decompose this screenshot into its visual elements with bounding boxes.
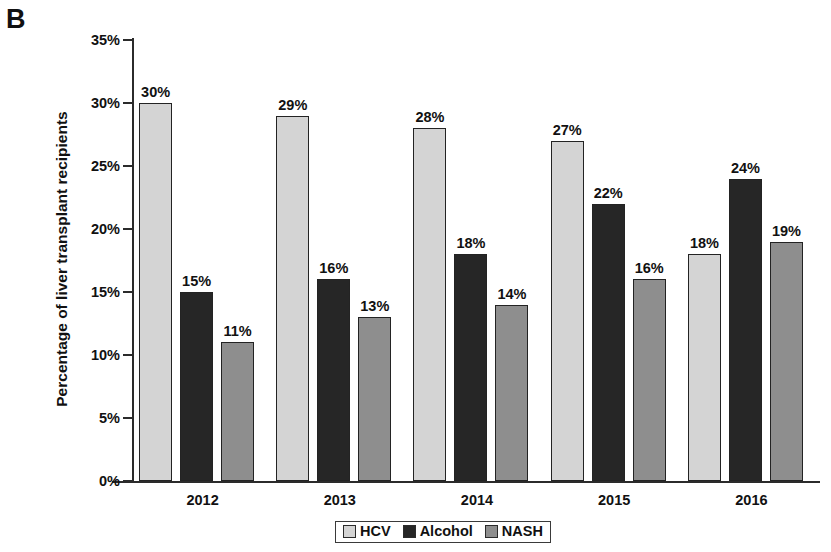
bar-value-label: 28% <box>415 109 444 125</box>
figure-panel-b: B Percentage of liver transplant recipie… <box>0 0 831 552</box>
bar-value-label: 11% <box>223 323 251 339</box>
legend-label: NASH <box>502 524 543 539</box>
y-axis-tick-label: 10% <box>62 347 120 363</box>
legend-label: Alcohol <box>420 524 473 539</box>
legend-swatch-icon <box>343 525 356 538</box>
legend-item[interactable]: HCV <box>343 524 391 539</box>
y-axis-tick <box>123 291 133 293</box>
bar-value-label: 30% <box>141 84 170 100</box>
y-axis-tick-label: 25% <box>62 158 120 174</box>
bar-value-label: 19% <box>772 223 801 239</box>
bar[interactable]: 18% <box>688 254 721 481</box>
bar[interactable]: 28% <box>413 128 446 481</box>
bar[interactable]: 13% <box>358 317 391 481</box>
y-axis-tick <box>123 354 133 356</box>
bar[interactable]: 11% <box>221 342 254 481</box>
x-axis-tick-label: 2013 <box>271 492 408 508</box>
legend-swatch-icon <box>485 525 498 538</box>
bar[interactable]: 19% <box>770 242 803 481</box>
bar-value-label: 13% <box>360 298 389 314</box>
bar-value-label: 27% <box>553 122 582 138</box>
bar-group: 29%16%13% <box>271 40 408 481</box>
y-axis-tick-label: 5% <box>62 410 120 426</box>
x-axis-tick-label: 2012 <box>134 492 271 508</box>
x-axis-tick-label: 2014 <box>408 492 545 508</box>
y-axis-tick-label: 35% <box>62 32 120 48</box>
bar[interactable]: 14% <box>495 305 528 481</box>
bar-value-label: 14% <box>497 286 526 302</box>
y-axis-tick <box>123 480 133 482</box>
bar-value-label: 22% <box>594 185 623 201</box>
y-axis-tick-label: 0% <box>62 473 120 489</box>
y-axis-tick <box>123 228 133 230</box>
bar-value-label: 18% <box>456 235 485 251</box>
y-axis-tick <box>123 102 133 104</box>
bar-group: 18%24%19% <box>683 40 820 481</box>
bar[interactable]: 27% <box>551 141 584 481</box>
bar-value-label: 16% <box>635 260 664 276</box>
y-axis-tick-label: 20% <box>62 221 120 237</box>
panel-label: B <box>6 6 26 33</box>
bar-value-label: 29% <box>278 97 307 113</box>
y-axis-tick <box>123 39 133 41</box>
y-axis-tick <box>123 417 133 419</box>
x-axis-tick-label: 2016 <box>683 492 820 508</box>
bar[interactable]: 30% <box>139 103 172 481</box>
legend-label: HCV <box>360 524 391 539</box>
y-axis-tick <box>123 165 133 167</box>
bar-value-label: 18% <box>690 235 719 251</box>
x-axis-line <box>112 481 820 483</box>
bar-value-label: 15% <box>182 273 211 289</box>
x-axis-tick-label: 2015 <box>546 492 683 508</box>
chart-legend: HCVAlcoholNASH <box>335 521 551 543</box>
bar-value-label: 16% <box>319 260 348 276</box>
plot-area: 30%15%11%29%16%13%28%18%14%27%22%16%18%2… <box>134 40 820 481</box>
legend-item[interactable]: Alcohol <box>403 524 473 539</box>
legend-item[interactable]: NASH <box>485 524 543 539</box>
bar[interactable]: 29% <box>276 116 309 481</box>
y-axis-tick-label: 30% <box>62 95 120 111</box>
y-axis-title: Percentage of liver transplant recipient… <box>53 49 71 469</box>
bar-group: 27%22%16% <box>546 40 683 481</box>
bar[interactable]: 24% <box>729 179 762 481</box>
bar[interactable]: 18% <box>454 254 487 481</box>
bar-group: 28%18%14% <box>408 40 545 481</box>
bar-value-label: 24% <box>731 160 760 176</box>
bar[interactable]: 22% <box>592 204 625 481</box>
y-axis-tick-label: 15% <box>62 284 120 300</box>
bar[interactable]: 16% <box>317 279 350 481</box>
bar[interactable]: 15% <box>180 292 213 481</box>
bar[interactable]: 16% <box>633 279 666 481</box>
bar-group: 30%15%11% <box>134 40 271 481</box>
legend-swatch-icon <box>403 525 416 538</box>
